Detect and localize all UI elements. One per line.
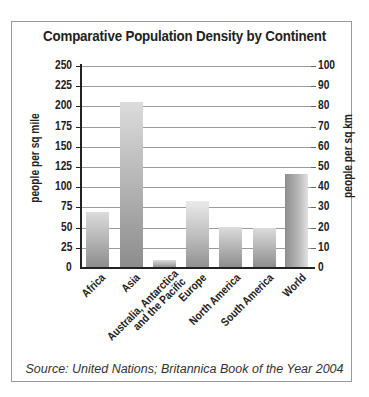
gridline-200 <box>82 106 315 107</box>
right-tick-label: 40 <box>318 179 329 193</box>
bar-asia <box>120 102 143 268</box>
tick <box>311 228 316 229</box>
left-tick-label: 100 <box>55 179 72 193</box>
plot-area: 250 225 200 175 150 125 100 75 50 25 0 1… <box>0 0 369 397</box>
right-tick-label: 30 <box>318 199 329 213</box>
left-tick-label: 150 <box>55 139 72 153</box>
right-tick-label: 0 <box>318 260 324 274</box>
left-tick-label: 75 <box>61 199 72 213</box>
tick <box>311 167 316 168</box>
gridline-125 <box>82 167 315 168</box>
right-tick-label: 90 <box>318 78 329 92</box>
x-label-world: World <box>277 272 308 303</box>
left-tick-label: 0 <box>66 260 72 274</box>
x-label-africa: Africa <box>77 272 108 303</box>
gridline-250 <box>82 66 315 67</box>
bar-south-america <box>253 228 276 268</box>
left-axis-title: people per sq mile <box>28 113 42 203</box>
tick <box>311 187 316 188</box>
left-tick-label: 125 <box>55 159 72 173</box>
tick <box>311 147 316 148</box>
x-label-asia: Asia <box>117 272 142 297</box>
right-tick-label: 60 <box>318 139 329 153</box>
source-note: Source: United Nations; Britannica Book … <box>0 362 369 376</box>
left-tick-label: 250 <box>55 58 72 72</box>
bar-world <box>285 174 308 268</box>
tick <box>311 106 316 107</box>
right-tick-label: 70 <box>318 119 329 133</box>
left-tick-label: 200 <box>55 98 72 112</box>
left-tick-label: 50 <box>61 220 72 234</box>
y-axis-line <box>80 64 82 269</box>
right-axis-title: people per sq km <box>341 114 355 198</box>
gridline-100 <box>82 187 315 188</box>
tick <box>311 248 316 249</box>
right-tick-label: 80 <box>318 98 329 112</box>
tick <box>311 207 316 208</box>
gridline-225 <box>82 86 315 87</box>
right-tick-label: 50 <box>318 159 329 173</box>
tick <box>311 86 316 87</box>
left-tick-label: 25 <box>61 240 72 254</box>
left-tick-label: 225 <box>55 78 72 92</box>
x-label-south-america: South America <box>211 272 276 337</box>
bar-north-america <box>219 227 242 268</box>
right-tick-label: 10 <box>318 240 329 254</box>
x-label-australia-antarctica-pacific: Australia, Antarctica and the Pacific <box>93 268 187 362</box>
left-tick-label: 175 <box>55 119 72 133</box>
bar-africa <box>86 212 109 268</box>
gridline-150 <box>82 147 315 148</box>
bar-europe <box>186 201 209 268</box>
right-tick-label: 20 <box>318 220 329 234</box>
right-tick-label: 100 <box>318 58 335 72</box>
tick <box>311 66 316 67</box>
x-axis-line <box>80 267 315 269</box>
gridline-175 <box>82 127 315 128</box>
tick <box>311 127 316 128</box>
